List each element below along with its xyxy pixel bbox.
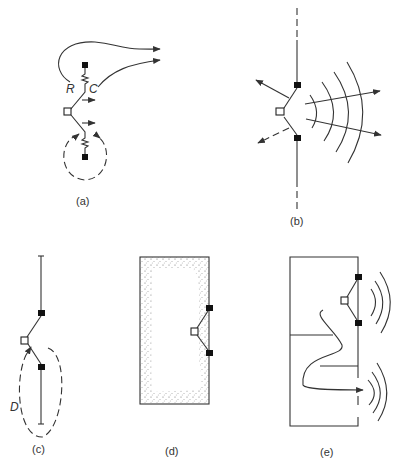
terminal-bottom [206,350,213,356]
feed-point [64,108,71,115]
feed-point [341,297,348,304]
terminal-top [206,305,213,311]
label-R: R [66,82,75,96]
terminal-top [294,82,301,88]
panel-b: (b) [256,8,381,227]
panel-label-c: (c) [32,443,45,455]
label-C: C [89,82,98,96]
panel-label-d: (d) [165,445,178,457]
feed-point [191,328,198,335]
diagram-canvas: R C (a) (b) D (c) [0,0,415,465]
feed-point [21,337,28,344]
terminal-bottom [82,154,88,160]
terminal-bottom [38,364,45,370]
feed-point [276,108,284,115]
stippled-medium [140,257,209,403]
wave-path [303,310,363,390]
terminal-top [38,310,45,316]
panel-d: (d) [140,257,213,457]
enclosure [290,257,358,426]
panel-label-b: (b) [290,215,303,227]
terminal-top [355,274,362,280]
resistor-lower [71,115,88,154]
terminal-top [82,62,88,68]
panel-label-e: (e) [320,446,333,458]
panel-label-a: (a) [76,195,89,207]
terminal-bottom [355,320,362,326]
radiation-path-lower [98,60,160,87]
panel-c: D (c) [10,256,62,455]
label-D: D [10,400,19,414]
panel-e: (e) [290,257,390,458]
terminal-bottom [294,135,301,141]
panel-a: R C (a) [59,42,160,207]
